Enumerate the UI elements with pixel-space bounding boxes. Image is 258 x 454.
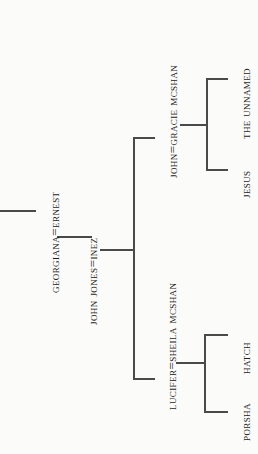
family-tree-diagram: Georgiana=Ernest John Jones=Inez John=Gr… [0, 0, 258, 454]
node-john-gracie-mcshan: John=Gracie McShan [166, 65, 180, 178]
connector-john-gracie-spine [206, 78, 208, 171]
connector-main-to-lucifer-sheila [133, 378, 155, 380]
connector-ancestor-stub [0, 210, 36, 212]
node-john-jones-inez: John Jones=Inez [86, 238, 100, 326]
connector-lucifer-sheila-spine [204, 334, 206, 413]
connector-john-gracie-stem [180, 124, 208, 126]
connector-lucifer-sheila-stem [176, 362, 206, 364]
connector-john-gracie-to-the-unnamed [206, 78, 228, 80]
connector-john-gracie-to-jesus [206, 169, 228, 171]
node-lucifer-sheila-mcshan: Lucifer=Sheila McShan [165, 283, 179, 410]
connector-johnjones-stem [100, 249, 135, 251]
node-jesus: Jesus [240, 170, 253, 198]
node-georgiana-ernest: Georgiana=Ernest [48, 191, 62, 293]
connector-lucifer-sheila-to-hatch [204, 334, 228, 336]
node-porsha: Porsha [240, 403, 253, 441]
connector-main-to-john-gracie [133, 137, 155, 139]
connector-lucifer-sheila-to-porsha [204, 411, 228, 413]
node-the-unnamed: The Unnamed [240, 68, 253, 139]
node-hatch: Hatch [240, 342, 253, 374]
connector-main-spine [133, 137, 135, 380]
